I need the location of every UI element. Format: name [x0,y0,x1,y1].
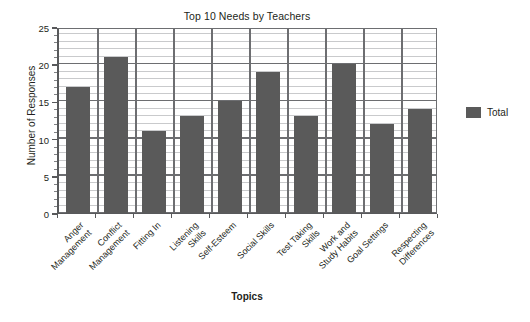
y-axis-tick-mark [52,176,57,178]
y-axis-tick-label: 15 [15,97,49,108]
x-axis-category-label-line: Self-Esteem [196,220,238,262]
y-axis-minor-tick-mark [54,57,57,58]
category-divider [173,29,175,213]
category-divider [249,29,251,213]
gridline-minor [59,41,436,42]
x-axis-tick-mark [361,214,362,218]
y-axis-tick-mark [52,139,57,141]
gridline-minor [59,33,436,34]
y-axis-tick-label: 5 [15,171,49,182]
legend: Total [466,107,508,118]
bar [370,124,394,213]
x-axis-tick-mark [399,214,400,218]
bar [408,109,432,213]
y-axis-minor-tick-mark [54,154,57,155]
bar [142,131,166,213]
y-axis-minor-tick-mark [54,94,57,95]
x-axis-category-label-line: Social Skills [235,220,276,261]
x-axis-tick-mark [323,214,324,218]
x-axis-tick-mark [285,214,286,218]
y-axis-minor-tick-mark [54,117,57,118]
chart-title: Top 10 Needs by Teachers [57,10,437,22]
bar [218,101,242,213]
bar [294,116,318,213]
x-axis-tick-mark [171,214,172,218]
y-axis-minor-tick-mark [54,199,57,200]
bar-chart: Top 10 Needs by Teachers Number of Respo… [0,0,530,322]
y-axis-minor-tick-mark [54,42,57,43]
x-axis-tick-mark [247,214,248,218]
category-divider [135,29,137,213]
y-axis-minor-tick-mark [54,80,57,81]
bar [104,57,128,213]
bar [256,72,280,213]
y-axis-minor-tick-mark [54,50,57,51]
x-axis-tick-mark [209,214,210,218]
legend-label-total: Total [487,107,508,118]
category-divider [401,29,403,213]
y-axis-tick-label: 0 [15,209,49,220]
y-axis-tick-label: 25 [15,23,49,34]
plot-area [57,28,437,214]
category-divider [363,29,365,213]
y-axis-minor-tick-mark [54,184,57,185]
x-axis-tick-mark [95,214,96,218]
y-axis-tick-mark [52,64,57,66]
y-axis-minor-tick-mark [54,35,57,36]
y-axis-minor-tick-mark [54,124,57,125]
gridline-minor [59,48,436,49]
y-axis-minor-tick-mark [54,109,57,110]
y-axis-minor-tick-mark [54,87,57,88]
y-axis-minor-tick-mark [54,161,57,162]
y-axis-minor-tick-mark [54,191,57,192]
x-axis-tick-mark [133,214,134,218]
y-axis-minor-tick-mark [54,169,57,170]
x-axis-category-label-text: Fitting In [131,220,163,252]
x-axis-category-label-line: Fitting In [131,220,163,252]
category-divider [97,29,99,213]
x-axis-category-label-text: Social Skills [235,220,276,261]
x-axis-tick-mark [57,214,58,218]
category-divider [211,29,213,213]
x-axis-title: Topics [57,291,437,302]
y-axis-tick-mark [52,102,57,104]
category-divider [287,29,289,213]
y-axis-minor-tick-mark [54,132,57,133]
y-axis-minor-tick-mark [54,206,57,207]
y-axis-tick-label: 10 [15,134,49,145]
x-axis-tick-mark [437,214,438,218]
category-divider [325,29,327,213]
y-axis-minor-tick-mark [54,72,57,73]
bar [332,64,356,213]
x-axis-category-label-text: RespectingDifferences [389,220,436,267]
legend-swatch-total [466,107,481,118]
x-axis-category-label-text: Self-Esteem [196,220,238,262]
y-axis-tick-label: 20 [15,60,49,71]
y-axis-tick-mark [52,27,57,29]
bar [180,116,204,213]
y-axis-minor-tick-mark [54,147,57,148]
bar [66,87,90,213]
